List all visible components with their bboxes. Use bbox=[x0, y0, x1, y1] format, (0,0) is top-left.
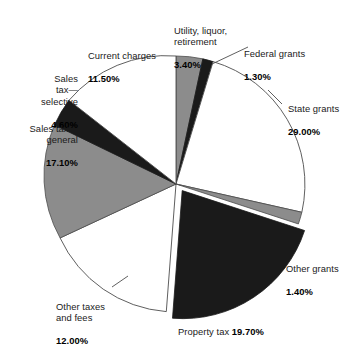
label-sales-tax-general-name: Sales tax— general bbox=[0, 123, 78, 146]
label-utility-liquor-retirement: Utility, liquor, retirement 3.40% bbox=[174, 13, 254, 71]
label-current-charges-value: 11.50% bbox=[88, 73, 120, 84]
label-sales-tax-selective-name: Sales tax— selective bbox=[6, 73, 78, 108]
label-sales-tax-general: Sales tax— general 17.10% bbox=[0, 111, 78, 169]
label-property-tax: Property tax 19.70% bbox=[178, 314, 318, 337]
label-other-taxes-and-fees-name: Other taxes and fees bbox=[56, 301, 146, 324]
label-utility-liquor-retirement-value: 3.40% bbox=[174, 59, 201, 70]
pie-chart-figure: Sales tax— selective 4.60% Sales tax— ge… bbox=[0, 0, 357, 346]
label-current-charges-name: Current charges bbox=[88, 50, 172, 62]
label-other-grants-name: Other grants bbox=[286, 263, 357, 275]
label-utility-liquor-retirement-name: Utility, liquor, retirement bbox=[174, 25, 254, 48]
label-property-tax-value: 19.70% bbox=[232, 326, 264, 337]
label-sales-tax-general-value: 17.10% bbox=[46, 157, 78, 168]
label-federal-grants-value: 1.30% bbox=[244, 71, 271, 82]
label-property-tax-name: Property tax bbox=[178, 326, 232, 337]
label-other-taxes-and-fees-value: 12.00% bbox=[56, 335, 88, 346]
label-other-grants: Other grants 1.40% bbox=[286, 251, 357, 297]
label-current-charges: Current charges 11.50% bbox=[88, 38, 172, 84]
label-state-grants-name: State grants bbox=[288, 103, 357, 115]
label-federal-grants: Federal grants 1.30% bbox=[244, 36, 339, 82]
label-state-grants: State grants 29.00% bbox=[288, 91, 357, 137]
label-other-grants-value: 1.40% bbox=[286, 286, 313, 297]
label-federal-grants-name: Federal grants bbox=[244, 48, 339, 60]
label-state-grants-value: 29.00% bbox=[288, 126, 320, 137]
pie-slices bbox=[44, 56, 305, 319]
label-other-taxes-and-fees: Other taxes and fees 12.00% bbox=[56, 289, 146, 346]
